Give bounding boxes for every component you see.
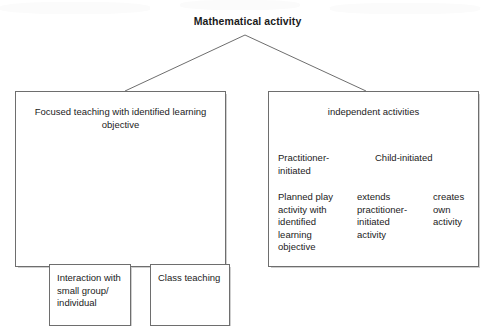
panel-independent-activities-heading: independent activities: [275, 105, 472, 118]
panel-focused-teaching-heading: Focused teaching with identified learnin…: [22, 105, 219, 131]
connector-root-to-independent-activities: [245, 35, 366, 91]
connector-root-to-focused-teaching: [125, 35, 245, 91]
node-child-initiated: Child-initiated: [375, 152, 455, 165]
node-practitioner-initiated: Practitioner-initiated: [278, 152, 340, 177]
node-interaction-small-group-label: Interaction with small group/ individual: [57, 272, 126, 310]
scan-artifact: [330, 3, 480, 14]
node-creates-own-activity: creates own activity: [433, 191, 479, 229]
scan-artifact: [180, 0, 300, 10]
panel-focused-teaching: Focused teaching with identified learnin…: [15, 91, 226, 267]
node-class-teaching-label: Class teaching: [158, 272, 225, 285]
node-planned-play-activity: Planned play activity with identified le…: [278, 191, 336, 254]
node-class-teaching: Class teaching: [150, 264, 230, 326]
diagram-title: Mathematical activity: [0, 15, 495, 27]
node-interaction-small-group: Interaction with small group/ individual: [49, 264, 131, 326]
scan-artifact: [0, 2, 150, 14]
node-extends-practitioner-initiated-activity: extends practitioner-initiated activity: [357, 191, 417, 241]
